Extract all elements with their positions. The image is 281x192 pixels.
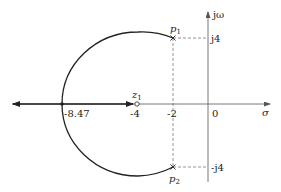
origin-label: 0	[212, 108, 218, 119]
label-z1: z1	[131, 89, 142, 102]
imag-axis-label: jω	[212, 9, 224, 20]
tick-label-neg-j4: -j4	[211, 162, 224, 173]
tick-label-neg2: -2	[167, 108, 177, 119]
breakaway-point	[60, 102, 64, 106]
root-locus-diagram: jω σ 0 j4 -j4 -8.47 -4 -2 p1 p2 z1	[0, 0, 281, 192]
label-p1: p1	[170, 23, 181, 36]
tick-label-neg4: -4	[130, 108, 140, 119]
tick-label-breakaway: -8.47	[64, 108, 90, 119]
real-axis-label: σ	[262, 107, 270, 118]
locus-upper-arc	[62, 32, 173, 104]
label-p2: p2	[169, 173, 180, 186]
guide-lines	[173, 38, 208, 167]
tick-label-j4: j4	[210, 33, 220, 44]
zero-z1	[135, 102, 139, 106]
